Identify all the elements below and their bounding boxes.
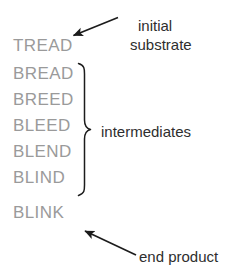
arrow-to-end-product [85, 231, 136, 255]
annotation-end-product: end product [139, 247, 218, 266]
annotation-initial-substrate: initial substrate [138, 16, 192, 54]
ladder-word-tread: TREAD [13, 36, 73, 55]
ladder-word-blink: BLINK [13, 203, 64, 222]
ladder-word-blend: BLEND [13, 142, 72, 161]
ladder-word-bread: BREAD [13, 64, 74, 83]
word-ladder-figure: TREAD BREAD BREED BLEED BLEND BLIND BLIN… [0, 0, 246, 280]
annotation-intermediates: intermediates [101, 122, 191, 141]
arrow-to-initial-substrate [74, 18, 119, 36]
ladder-word-blind: BLIND [13, 168, 65, 187]
ladder-word-bleed: BLEED [13, 116, 71, 135]
annotation-initial-substrate-line1: initial [138, 17, 172, 34]
annotation-initial-substrate-line2: substrate [130, 35, 192, 54]
intermediates-brace [79, 64, 91, 196]
ladder-word-breed: BREED [13, 90, 74, 109]
